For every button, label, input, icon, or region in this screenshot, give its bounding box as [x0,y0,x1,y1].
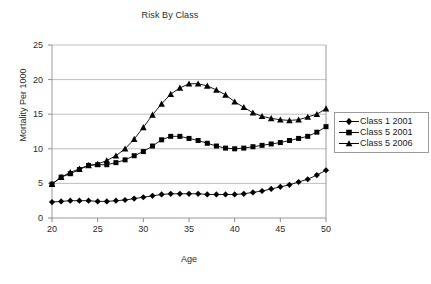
diamond-data-point [305,176,311,182]
diamond-data-point [113,198,119,204]
triangle-data-point [241,104,248,110]
y-tick-label: 15 [19,109,43,119]
square-data-point [314,130,319,135]
diamond-data-point [76,198,82,204]
square-data-point [232,146,237,151]
y-tick-label: 5 [19,178,43,188]
triangle-data-point [140,124,147,130]
diamond-data-point [49,199,55,205]
x-tick-label: 35 [177,224,201,234]
x-tick-label: 40 [223,224,247,234]
legend-item[interactable]: Class 5 2001 [338,127,426,138]
triangle-data-point [113,152,120,158]
diamond-data-point [85,198,91,204]
square-data-point [141,149,146,154]
axis-ticks [48,45,326,222]
y-tick-label: 25 [19,40,43,50]
square-data-point [132,153,137,158]
series-class-5-2001 [50,124,329,186]
diamond-data-point [250,189,256,195]
square-data-point [196,138,201,143]
square-data-point [187,136,192,141]
x-tick-label: 50 [314,224,338,234]
square-data-point [123,157,128,162]
triangle-data-point [323,105,330,111]
triangle-data-point [177,85,184,91]
chart-legend: Class 1 2001 Class 5 2001 Class 5 2006 [334,112,429,153]
square-data-point [214,144,219,149]
series-line [52,170,326,202]
diamond-data-point [67,198,73,204]
triangle-data-point [213,87,220,93]
diamond-data-point [159,191,165,197]
y-tick-label: 0 [19,213,43,223]
square-data-point [113,160,118,165]
data-series-layer [49,80,330,205]
square-data-point [241,146,246,151]
diamond-data-point [286,182,292,188]
legend-item[interactable]: Class 5 2006 [338,138,426,149]
diamond-data-point [204,191,210,197]
square-data-point [269,141,274,146]
diamond-data-point [95,198,101,204]
diamond-data-point [131,196,137,202]
x-tick-label: 45 [268,224,292,234]
diamond-data-point [140,194,146,200]
square-data-point [287,138,292,143]
y-tick-label: 20 [19,75,43,85]
square-marker-icon [338,127,360,138]
triangle-data-point [250,110,257,116]
diamond-data-point [277,184,283,190]
diamond-data-point [268,186,274,192]
series-class-5-2006 [49,80,330,186]
x-tick-label: 20 [40,224,64,234]
square-data-point [305,134,310,139]
legend-label: Class 5 2001 [360,127,413,138]
series-line [52,127,326,184]
x-tick-label: 30 [131,224,155,234]
diamond-data-point [58,198,64,204]
diamond-data-point [186,191,192,197]
diamond-data-point [296,179,302,185]
square-data-point [250,144,255,149]
diamond-data-point [177,191,183,197]
diamond-data-point [149,193,155,199]
diamond-data-point [122,197,128,203]
triangle-data-point [104,157,111,163]
diamond-marker-icon [338,116,360,127]
diamond-data-point [314,172,320,178]
y-tick-label: 10 [19,144,43,154]
triangle-data-point [222,92,229,98]
square-data-point [324,124,329,129]
diamond-data-point [104,198,110,204]
series-line [52,84,326,184]
square-data-point [260,143,265,148]
diamond-data-point [232,191,238,197]
diamond-data-point [213,191,219,197]
square-data-point [223,146,228,151]
triangle-marker-icon [338,138,360,149]
diamond-data-point [195,191,201,197]
legend-item[interactable]: Class 1 2001 [338,116,426,127]
legend-label: Class 5 2006 [360,138,413,149]
triangle-data-point [231,98,238,104]
x-tick-label: 25 [86,224,110,234]
series-class-1-2001 [49,167,329,205]
diamond-data-point [241,191,247,197]
square-data-point [205,141,210,146]
square-data-point [159,137,164,142]
square-data-point [278,140,283,145]
square-data-point [296,136,301,141]
square-data-point [177,134,182,139]
square-data-point [150,144,155,149]
square-data-point [168,134,173,139]
diamond-data-point [222,191,228,197]
chart-container: Risk By Class Mortality Per 1000 Age 051… [0,0,431,284]
gridlines [52,45,326,183]
diamond-data-point [168,191,174,197]
diamond-data-point [259,188,265,194]
diamond-data-point [323,167,329,173]
triangle-data-point [167,91,174,97]
legend-label: Class 1 2001 [360,116,413,127]
